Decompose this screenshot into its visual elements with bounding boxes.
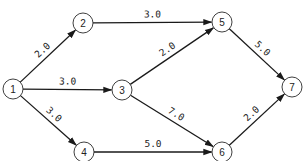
- node-5: 5: [212, 12, 232, 32]
- edge-weight-label: 5.0: [144, 138, 161, 149]
- edge-labels-layer: 2.03.03.03.02.07.05.05.02.0: [32, 8, 273, 149]
- edge-6-7: [229, 94, 284, 145]
- edges-layer: [20, 22, 284, 152]
- node-6: 6: [212, 142, 232, 161]
- network-graph: 2.03.03.03.02.07.05.05.02.0 1234567: [0, 0, 305, 161]
- edge-weight-label: 7.0: [166, 105, 187, 124]
- edge-1-3: [23, 89, 112, 90]
- edge-1-2: [20, 30, 75, 82]
- node-4: 4: [74, 142, 94, 161]
- node-label: 7: [289, 82, 295, 93]
- edge-weight-label: 3.0: [59, 75, 77, 86]
- node-label: 1: [10, 84, 16, 95]
- cutoff-caption: [0, 0, 305, 3]
- node-2: 2: [73, 13, 93, 33]
- node-label: 5: [219, 17, 225, 28]
- edge-2-5: [93, 22, 212, 23]
- node-label: 2: [80, 18, 86, 29]
- node-1: 1: [3, 79, 23, 99]
- edge-weight-label: 2.0: [157, 39, 178, 58]
- edge-5-7: [229, 29, 284, 80]
- edge-weight-label: 3.0: [144, 8, 162, 19]
- node-3: 3: [112, 80, 132, 100]
- edge-weight-label: 5.0: [253, 38, 273, 58]
- node-7: 7: [282, 77, 302, 97]
- edge-3-6: [130, 95, 213, 146]
- edge-weight-label: 2.0: [241, 103, 261, 123]
- edge-3-5: [130, 28, 213, 84]
- node-label: 3: [119, 85, 125, 96]
- node-label: 6: [219, 147, 225, 158]
- edge-1-4: [20, 96, 76, 145]
- node-label: 4: [81, 147, 87, 158]
- edge-weight-label: 3.0: [44, 104, 64, 124]
- edge-weight-label: 2.0: [32, 40, 52, 60]
